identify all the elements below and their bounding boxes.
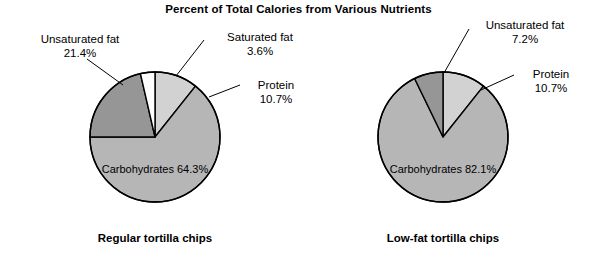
callout-left-unsaturated-fat-name: Unsaturated fat bbox=[41, 33, 120, 45]
callout-right-unsaturated-fat-name: Unsaturated fat bbox=[486, 19, 565, 31]
callout-left-protein-name: Protein bbox=[258, 79, 294, 91]
callout-left-saturated-fat-value: 3.6% bbox=[170, 45, 350, 59]
leader-left-unsaturated bbox=[87, 59, 123, 85]
callout-right-unsaturated-fat: Unsaturated fat 7.2% bbox=[435, 19, 597, 46]
slice-label-left-carbohydrates: Carbohydrates 64.3% bbox=[65, 163, 245, 177]
callout-left-saturated-fat-name: Saturated fat bbox=[227, 31, 293, 43]
slice-label-right-carbohydrates-value: 82.1% bbox=[465, 163, 496, 175]
slice-label-right-carbohydrates-name: Carbohydrates bbox=[390, 163, 462, 175]
callout-right-protein: Protein 10.7% bbox=[461, 68, 597, 95]
callout-right-protein-value: 10.7% bbox=[461, 82, 597, 96]
pie-chart-figure: Percent of Total Calories from Various N… bbox=[0, 0, 597, 261]
callout-left-saturated-fat: Saturated fat 3.6% bbox=[170, 31, 350, 58]
slice-label-right-carbohydrates: Carbohydrates 82.1% bbox=[353, 163, 533, 177]
callout-left-protein: Protein 10.7% bbox=[186, 79, 366, 106]
callout-left-unsaturated-fat: Unsaturated fat 21.4% bbox=[0, 33, 170, 60]
callout-right-protein-name: Protein bbox=[533, 68, 569, 80]
caption-left-chart: Regular tortilla chips bbox=[65, 232, 245, 244]
caption-right-chart: Low-fat tortilla chips bbox=[353, 232, 533, 244]
slice-label-left-carbohydrates-name: Carbohydrates bbox=[102, 163, 174, 175]
callout-left-protein-value: 10.7% bbox=[186, 93, 366, 107]
callout-right-unsaturated-fat-value: 7.2% bbox=[435, 33, 597, 47]
callout-left-unsaturated-fat-value: 21.4% bbox=[0, 47, 170, 61]
slice-label-left-carbohydrates-value: 64.3% bbox=[177, 163, 208, 175]
